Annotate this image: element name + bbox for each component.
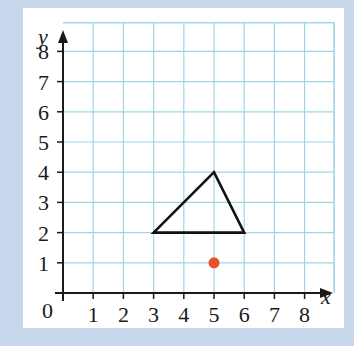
x-tick-label: 4 bbox=[178, 302, 189, 327]
x-tick-label: 1 bbox=[88, 302, 99, 327]
y-axis-label: y bbox=[36, 24, 48, 49]
origin-label: 0 bbox=[42, 298, 53, 323]
y-tick-label: 7 bbox=[38, 70, 49, 95]
y-axis-arrow-icon bbox=[58, 30, 68, 43]
y-tick-label: 1 bbox=[38, 251, 49, 276]
y-tick-label: 4 bbox=[38, 160, 49, 185]
coordinate-grid-chart: 1234567812345678 x y 0 bbox=[0, 0, 354, 346]
axes bbox=[55, 30, 333, 301]
red-point bbox=[209, 257, 220, 268]
points-layer bbox=[209, 257, 220, 268]
grid-lines bbox=[63, 23, 334, 293]
x-tick-label: 7 bbox=[269, 302, 280, 327]
x-tick-label: 6 bbox=[239, 302, 250, 327]
y-tick-label: 6 bbox=[38, 100, 49, 125]
tick-labels: 1234567812345678 bbox=[38, 39, 310, 327]
y-tick-label: 3 bbox=[38, 190, 49, 215]
x-tick-label: 3 bbox=[148, 302, 159, 327]
x-tick-label: 2 bbox=[118, 302, 129, 327]
y-tick-label: 5 bbox=[38, 130, 49, 155]
y-tick-label: 2 bbox=[38, 221, 49, 246]
x-tick-label: 8 bbox=[299, 302, 310, 327]
x-axis-label: x bbox=[320, 284, 331, 309]
x-tick-label: 5 bbox=[209, 302, 220, 327]
